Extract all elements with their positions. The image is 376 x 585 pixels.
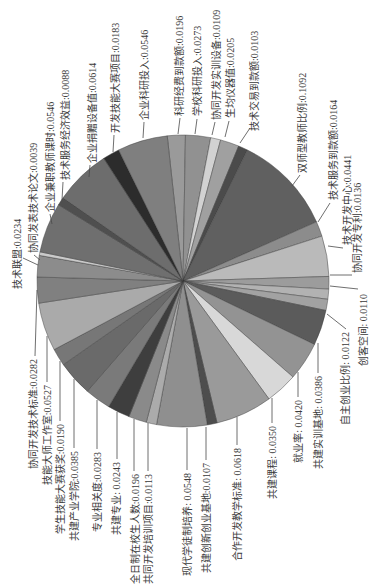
slice-label: 技术联盟:0.0234 — [11, 219, 23, 289]
pie-slices — [37, 135, 329, 427]
slice-label: 企业科研投入:0.0546 — [138, 30, 150, 120]
slice-label: 共同开发培训项目:0.0113 — [142, 474, 154, 584]
slice-label: 企业兼职教师课时:0.0546 — [44, 102, 56, 212]
leader-line — [23, 258, 38, 265]
slice-label: 就业率: 0.0420 — [292, 400, 304, 463]
slice-label: 协同开发技术标准:0.0282 — [27, 359, 39, 469]
leader-line — [327, 314, 346, 329]
slice-label: 科研经费到款额:0.0196 — [173, 16, 185, 116]
leader-line — [35, 290, 37, 356]
slice-label: 开发技能大赛项目:0.0183 — [109, 23, 121, 133]
leader-line — [330, 286, 358, 289]
slice-label: 现代学徒制培养: 0.0548 — [181, 473, 193, 576]
pie-chart-figure: 科研经费到款额:0.0196学校科研投入:0.0273协同开发实训设备:0.01… — [0, 0, 376, 585]
slice-label: 生均仪器值:0.0205 — [224, 38, 236, 118]
slice-label: 技术交易到款额:0.0103 — [248, 31, 260, 131]
slice-label: 合作开发教学标准: 0.0618 — [231, 448, 243, 561]
slice-label: 技术服务经济效益:0.0088 — [59, 70, 71, 180]
leader-line — [318, 203, 330, 222]
slice-label: 创客空间: 0.0110 — [357, 294, 369, 366]
slice-label: 协同发表技术论文:0.0039 — [27, 143, 39, 253]
slice-label: 学生技能大赛获奖:0.0190 — [54, 424, 66, 534]
leader-line — [225, 121, 229, 137]
leader-line — [178, 118, 180, 134]
slice-label: 自主创业比例: 0.0122 — [339, 332, 351, 425]
slice-label: 协同开发实训设备:0.0109 — [210, 10, 222, 120]
slice-label: 技能大师工作室:0.0527 — [41, 385, 53, 485]
leader-line — [328, 246, 343, 248]
slice-label: 共建产业学院:0.0385 — [68, 451, 80, 541]
slice-label: 专业相关度:0.0283 — [91, 452, 103, 532]
leader-line — [143, 122, 144, 138]
leader-line — [212, 122, 215, 135]
slice-label: 共建课程: 0.0350 — [266, 426, 278, 499]
pie-chart: 科研经费到款额:0.0196学校科研投入:0.0273协同开发实训设备:0.01… — [0, 0, 376, 585]
slice-label: 全日制在校生人数:0.0196 — [129, 474, 141, 584]
slice-label: 共建创新创业基地:0.0107 — [200, 463, 212, 573]
slice-label: 共建专业: 0.0243 — [110, 462, 122, 535]
slice-label: 双师型教师比例:0.1092 — [296, 73, 308, 173]
slice-label: 协同开发专利:0.0136 — [351, 183, 363, 273]
leader-line — [195, 119, 197, 134]
slice-label: 企业捐赠设备值:0.0614 — [86, 63, 98, 163]
leader-line — [292, 175, 300, 186]
slice-label: 共建实训基地: 0.0386 — [312, 376, 324, 469]
slice-label: 学校科研投入:0.0273 — [191, 26, 203, 116]
leader-line — [113, 135, 114, 152]
leader-line — [62, 182, 63, 200]
slice-label: 技术服务到款额:0.0164 — [327, 100, 339, 200]
